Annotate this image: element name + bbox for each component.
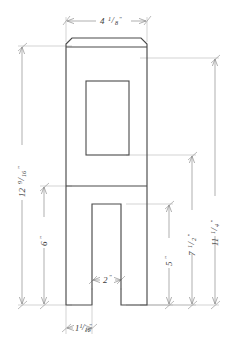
dim-label-overall-height-denominator: 16 <box>20 170 27 177</box>
drawing-canvas: 4 1 / 8 " 12 9 / 16 " 6 " 11 1 / 4 " <box>0 0 235 344</box>
dim-label-top-width: 4 1 / 8 " <box>100 15 122 26</box>
dim-label-overall-height-whole: 12 <box>17 188 27 198</box>
dim-label-top-width-unit: " <box>119 15 122 22</box>
dim-label-lower-height-unit: " <box>38 236 45 239</box>
dim-label-leg-width: 1 1 / 16 " <box>75 322 92 333</box>
dim-label-right-inner-whole: 5 <box>164 261 174 266</box>
dimension-lines <box>18 16 220 332</box>
dim-tick-left-inner-top <box>40 183 49 191</box>
dim-label-right-outer-height: 11 1 / 4 " <box>209 220 220 247</box>
dim-label-overall-height-unit: " <box>16 166 23 169</box>
dim-label-right-middle-whole: 7 <box>187 251 197 256</box>
upper-window-cutout <box>86 81 129 155</box>
dim-tick-left-outer-top <box>18 43 27 51</box>
dim-label-right-middle-unit: " <box>186 234 193 237</box>
part-outline <box>66 38 147 305</box>
dim-label-right-middle-denominator: 2 <box>190 238 197 241</box>
dim-tick-right-outer-top <box>211 55 220 63</box>
dim-label-right-middle-height: 7 1 / 2 " <box>186 234 197 257</box>
dim-label-leg-width-unit: " <box>89 322 92 329</box>
dim-tick-top-left <box>63 16 70 25</box>
part-body-path <box>66 38 147 305</box>
dim-label-slot-width-unit: " <box>109 273 112 280</box>
dim-label-right-inner-unit: " <box>163 256 170 259</box>
dim-label-right-outer-denominator: 4 <box>213 224 220 227</box>
dim-label-slot-width: 2 " <box>103 273 112 285</box>
dim-label-lower-height-whole: 6 <box>39 241 49 246</box>
dim-tick-right-inner-top <box>165 201 174 209</box>
dim-tick-right-middle-top <box>188 152 197 160</box>
extension-lines <box>18 17 219 334</box>
dim-label-right-outer-whole: 11 <box>210 238 220 246</box>
dim-label-top-width-whole: 4 <box>100 16 105 26</box>
dim-label-slot-width-whole: 2 <box>103 275 108 285</box>
dim-label-lower-height-left: 6 " <box>38 236 49 246</box>
dim-label-right-inner-height: 5 " <box>163 256 174 266</box>
technical-drawing: 4 1 / 8 " 12 9 / 16 " 6 " 11 1 / 4 " <box>0 0 235 344</box>
dim-label-right-outer-unit: " <box>209 220 216 223</box>
dim-tick-top-right <box>144 16 151 25</box>
dim-label-overall-height-left: 12 9 / 16 " <box>16 166 27 197</box>
